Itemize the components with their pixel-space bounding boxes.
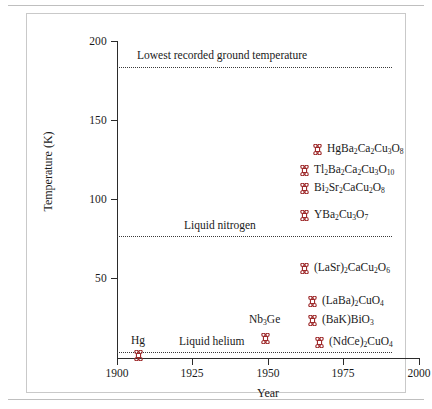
top-divider: [8, 5, 424, 6]
y-tick-50: [111, 278, 118, 279]
x-tick-label-2000: 2000: [389, 368, 432, 380]
data-point-BaKBiO3[interactable]: (BaK)BiO3: [307, 314, 374, 326]
formula-BaKBiO3: (BaK)BiO3: [322, 314, 374, 326]
formula-Tl2Ba2Ca2Cu3O10: Tl2Ba2Ca2Cu3O10: [314, 164, 394, 176]
looped-square-marker-icon: [299, 165, 310, 176]
x-tick-1900: [117, 358, 118, 365]
looped-square-marker-icon: [299, 263, 310, 274]
data-point-HgBa2Ca2Cu3O8[interactable]: HgBa2Ca2Cu3O8: [312, 143, 404, 155]
data-point-NdCe2CuO4[interactable]: (NdCe)2CuO4: [314, 336, 393, 348]
data-point-YBa2Cu3O7[interactable]: YBa2Cu3O7: [299, 209, 368, 221]
x-axis-label: Year: [117, 386, 419, 401]
looped-square-marker-icon: [133, 350, 144, 361]
looped-square-marker-icon: [299, 210, 310, 221]
x-tick-label-1900: 1900: [87, 368, 147, 380]
x-tick-1975: [343, 358, 344, 365]
x-tick-1950: [268, 358, 269, 365]
looped-square-marker-icon: [312, 144, 323, 155]
reference-line-liquid-nitrogen: [117, 236, 392, 237]
x-tick-label-1975: 1975: [313, 368, 373, 380]
y-tick-label-50: 50: [67, 273, 107, 285]
x-tick-1925: [192, 358, 193, 365]
formula-LaSr2CaCu2O6: (LaSr)2CaCu2O6: [314, 262, 390, 274]
y-tick-100: [111, 199, 118, 200]
formula-Hg: Hg: [131, 335, 145, 347]
formula-HgBa2Ca2Cu3O8: HgBa2Ca2Cu3O8: [327, 143, 404, 155]
data-point-Hg[interactable]: [133, 347, 148, 365]
looped-square-marker-icon: [314, 337, 325, 348]
y-tick-200: [111, 41, 118, 42]
data-point-Tl2Ba2Ca2Cu3O10[interactable]: Tl2Ba2Ca2Cu3O10: [299, 164, 394, 176]
y-tick-label-200: 200: [67, 36, 107, 48]
data-point-LaSr2CaCu2O6[interactable]: (LaSr)2CaCu2O6: [299, 262, 390, 274]
x-tick-label-1925: 1925: [162, 368, 222, 380]
x-tick-label-1950: 1950: [238, 368, 298, 380]
y-tick-150: [111, 120, 118, 121]
formula-YBa2Cu3O7: YBa2Cu3O7: [314, 209, 368, 221]
data-point-Bi2Sr2CaCu2O8[interactable]: Bi2Sr2CaCu2O8: [299, 182, 385, 194]
reference-label-liquid-helium: Liquid helium: [179, 336, 244, 348]
y-tick-label-150: 150: [67, 115, 107, 127]
data-point-Nb3Ge[interactable]: [260, 330, 275, 348]
reference-label-liquid-nitrogen: Liquid nitrogen: [184, 220, 256, 232]
formula-NdCe2CuO4: (NdCe)2CuO4: [329, 336, 393, 348]
formula-Nb3Ge: Nb3Ge: [249, 314, 280, 326]
formula-LaBa2CuO4: (LaBa)2CuO4: [322, 295, 384, 307]
superconductor-timeline-figure: 200 150 100 50 Temperature (K) 1900 1925…: [0, 0, 432, 409]
plot-frame: 200 150 100 50 Temperature (K) 1900 1925…: [26, 13, 406, 393]
looped-square-marker-icon: [260, 333, 271, 344]
reference-line-liquid-helium: [117, 352, 392, 353]
looped-square-marker-icon: [299, 183, 310, 194]
looped-square-marker-icon: [307, 296, 318, 307]
reference-line-ground-temperature: [117, 67, 392, 68]
looped-square-marker-icon: [307, 315, 318, 326]
x-tick-2000: [419, 358, 420, 365]
data-point-LaBa2CuO4[interactable]: (LaBa)2CuO4: [307, 295, 384, 307]
formula-Bi2Sr2CaCu2O8: Bi2Sr2CaCu2O8: [314, 182, 385, 194]
y-tick-label-100: 100: [67, 194, 107, 206]
y-axis-label: Temperature (K): [41, 87, 56, 257]
reference-label-ground-temperature: Lowest recorded ground temperature: [137, 50, 307, 62]
